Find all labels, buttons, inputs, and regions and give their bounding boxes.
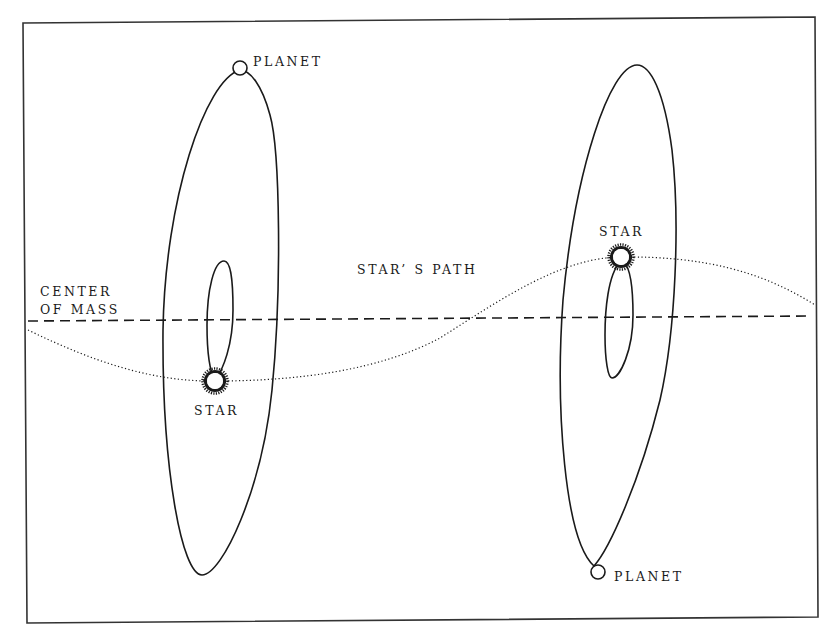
left-planet-label: PLANET — [253, 54, 323, 69]
right-planet-orbit — [560, 65, 676, 566]
orbit-diagram: PLANET STAR PLANET STAR CENTER OF MASS S… — [0, 0, 830, 637]
left-planet-orbit — [163, 70, 279, 575]
right-system: PLANET STAR — [560, 65, 683, 584]
right-star-label: STAR — [599, 224, 644, 239]
right-planet-icon — [591, 565, 605, 579]
center-of-mass-label-line1: CENTER — [40, 284, 112, 299]
left-star-label: STAR — [194, 403, 239, 418]
right-planet-label: PLANET — [614, 569, 684, 584]
center-of-mass-label-line2: OF MASS — [40, 302, 120, 317]
left-planet-icon — [233, 61, 247, 75]
stars-path-label: STAR’ S PATH — [357, 262, 478, 277]
right-star-orbit — [605, 262, 633, 378]
left-system: PLANET STAR — [163, 54, 323, 575]
center-of-mass-line — [28, 316, 810, 321]
